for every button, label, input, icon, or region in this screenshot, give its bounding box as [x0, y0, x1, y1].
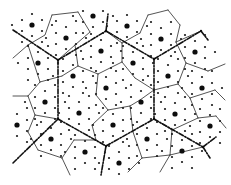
lattice-point: [36, 124, 38, 126]
lattice-point: [181, 139, 183, 141]
lattice-point: [108, 157, 110, 159]
lattice-point: [37, 51, 39, 53]
lattice-point: [174, 124, 176, 126]
cell-center-dot: [179, 148, 184, 153]
lattice-point: [166, 138, 168, 140]
lattice-point: [84, 140, 86, 142]
lattice-point: [140, 90, 142, 92]
lattice-point: [47, 68, 49, 70]
lattice-point: [147, 75, 149, 77]
lattice-point: [138, 162, 140, 164]
lattice-point: [104, 151, 106, 153]
lattice-point: [164, 119, 166, 121]
lattice-point: [181, 161, 183, 163]
cell-center-dot: [14, 122, 19, 127]
cell-edge: [216, 116, 226, 128]
cell-edge: [215, 90, 225, 100]
cell-center-dot: [29, 22, 34, 27]
lattice-point: [187, 75, 189, 77]
lattice-point: [150, 44, 152, 46]
lattice-point: [118, 151, 120, 153]
lattice-point: [82, 92, 84, 94]
lattice-point: [30, 138, 32, 140]
cell-center-dot: [42, 99, 47, 104]
lattice-point: [180, 38, 182, 40]
lattice-point: [156, 155, 158, 157]
lattice-point: [116, 42, 118, 44]
triple-junction: [202, 146, 204, 148]
lattice-point: [167, 86, 169, 88]
lattice-point: [27, 57, 29, 59]
cell-edge: [28, 96, 35, 115]
lattice-point: [156, 144, 158, 146]
grain-boundary: [101, 146, 106, 175]
triple-junction: [105, 145, 107, 147]
lattice-point: [128, 145, 130, 147]
lattice-point: [95, 104, 97, 106]
cell-edge: [96, 74, 98, 95]
lattice-point: [181, 87, 183, 89]
cell-center-dot: [124, 23, 129, 28]
lattice-point: [146, 127, 148, 129]
lattice-point: [201, 98, 203, 100]
lattice-point: [174, 102, 176, 104]
grain-boundary: [154, 119, 203, 147]
lattice-point: [34, 96, 36, 98]
lattice-point: [58, 112, 60, 114]
lattice-point: [150, 21, 152, 23]
lattice-point: [68, 95, 70, 97]
lattice-point: [122, 45, 124, 47]
lattice-point: [108, 145, 110, 147]
cell-center-dot: [130, 60, 135, 65]
lattice-point: [170, 44, 172, 46]
lattice-point: [90, 67, 92, 69]
lattice-point: [88, 107, 90, 109]
lattice-point: [209, 136, 211, 138]
lattice-point: [44, 112, 46, 114]
lattice-point: [74, 168, 76, 170]
lattice-point: [62, 81, 64, 83]
lattice-point: [50, 149, 52, 151]
lattice-point: [130, 107, 132, 109]
cell-edge: [168, 10, 180, 25]
lattice-point: [146, 149, 148, 151]
grain-boundary: [58, 119, 106, 146]
cell-center-dot: [48, 136, 53, 141]
lattice-point: [27, 79, 29, 81]
lattice-point: [26, 119, 28, 121]
cell-edge: [78, 66, 98, 74]
lattice-point: [26, 130, 28, 132]
voronoi-diagram: [0, 0, 231, 185]
lattice-point: [90, 45, 92, 47]
lattice-point: [191, 93, 193, 95]
lattice-point: [136, 42, 138, 44]
lattice-point: [82, 32, 84, 34]
cell-center-dot: [63, 35, 68, 40]
lattice-point: [44, 90, 46, 92]
lattice-point: [120, 101, 122, 103]
lattice-point: [52, 75, 54, 77]
lattice-point: [68, 107, 70, 109]
lattice-point: [54, 84, 56, 86]
cell-edge: [92, 110, 108, 125]
lattice-point: [92, 26, 94, 28]
lattice-point: [122, 141, 124, 143]
lattice-point: [45, 37, 47, 39]
lattice-point: [112, 113, 114, 115]
lattice-point: [130, 118, 132, 120]
lattice-point: [110, 33, 112, 35]
lattice-point: [78, 101, 80, 103]
cell-edge: [154, 84, 178, 90]
cell-edge: [190, 98, 198, 118]
lattice-point: [115, 82, 117, 84]
lattice-point: [98, 162, 100, 164]
lattice-point: [204, 46, 206, 48]
lattice-point: [157, 81, 159, 83]
triple-junction: [57, 59, 59, 61]
lattice-point: [191, 70, 193, 72]
lattice-point: [27, 68, 29, 70]
lattice-point: [132, 51, 134, 53]
lattice-point: [167, 64, 169, 66]
lattice-point: [112, 135, 114, 137]
lattice-point: [204, 57, 206, 59]
